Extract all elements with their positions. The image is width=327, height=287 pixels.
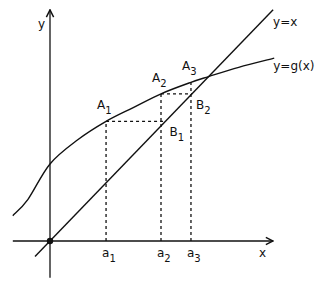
point-labels: B1A1a1B2A2a2A3a3 [97,59,211,264]
x-axis-label: x [259,246,266,260]
tick-a2-label: a2 [157,246,171,264]
point-a2-label-subscript: 2 [160,78,166,89]
tick-a3-label: a3 [187,246,201,264]
point-b2-label-subscript: 2 [204,105,210,116]
point-b1-label-subscript: 1 [178,132,184,143]
y-axis-label: y [38,17,45,31]
point-a3-label: A3 [182,59,197,77]
fixed-point-iteration-diagram: x y y=x y=g(x) B1A1a1B2A2a2A3a3 [0,0,327,287]
point-a1-label-subscript: 1 [105,105,111,116]
identity-line-label: y=x [273,15,297,29]
point-a1-label: A1 [97,98,112,116]
tick-a1-label: a1 [102,246,116,264]
point-a3-label-subscript: 3 [190,66,196,77]
g-curve [13,58,274,216]
origin-point [47,238,53,244]
point-b1-label: B1 [169,125,184,143]
point-b2-label: B2 [196,98,211,116]
point-a2-label: A2 [152,71,167,89]
dashed-guides [106,82,192,241]
tick-a3-label-subscript: 3 [194,253,200,264]
identity-line-y-equals-x [35,10,273,257]
tick-a2-label-subscript: 2 [164,253,170,264]
tick-a1-label-subscript: 1 [109,253,115,264]
g-curve-label: y=g(x) [273,59,314,73]
